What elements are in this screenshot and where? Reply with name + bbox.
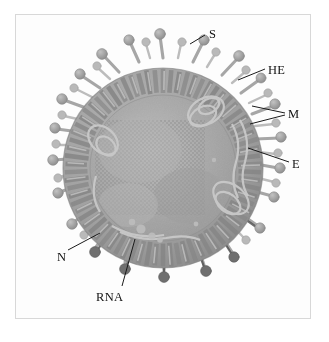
label-E: E	[292, 158, 300, 171]
virion-illustration	[0, 0, 329, 342]
label-HE: HE	[268, 64, 285, 77]
virion-figure: S HE M E N RNA	[0, 0, 329, 342]
label-M: M	[288, 108, 299, 121]
label-N: N	[57, 251, 66, 264]
label-S: S	[209, 28, 216, 41]
label-RNA: RNA	[96, 291, 123, 304]
